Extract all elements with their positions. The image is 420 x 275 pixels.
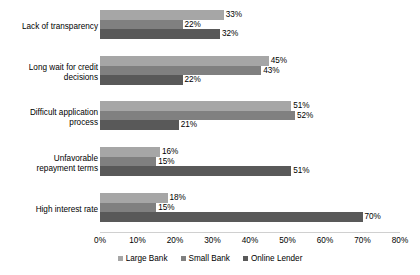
legend-item-small-bank[interactable]: Small Bank (181, 254, 230, 263)
bar-row: 51% (100, 166, 400, 176)
x-axis-line (100, 232, 400, 233)
legend-label: Large Bank (126, 254, 168, 263)
category-label-3: Unfavorable repayment terms (3, 154, 98, 173)
bar-online-lender (100, 29, 220, 39)
bar-large-bank (100, 56, 269, 66)
plot-area: 33%22%32%45%43%22%51%52%21%16%15%51%18%1… (100, 0, 400, 232)
bar-row: 32% (100, 29, 400, 39)
bar-row: 18% (100, 193, 400, 203)
bar-value-label: 22% (183, 75, 201, 85)
bar-small-bank (100, 203, 156, 213)
bar-small-bank (100, 111, 295, 121)
category-label-0: Lack of transparency (3, 22, 98, 32)
x-tick-label: 80% (392, 236, 408, 245)
category-label-line: Unfavorable (3, 154, 98, 164)
x-tick-label: 10% (129, 236, 145, 245)
bar-row: 15% (100, 157, 400, 167)
bar-small-bank (100, 66, 261, 76)
bar-large-bank (100, 101, 291, 111)
bar-group: 45%43%22% (100, 56, 400, 85)
category-label-4: High interest rate (3, 205, 98, 215)
bar-value-label: 18% (168, 193, 186, 203)
bar-online-lender (100, 166, 291, 176)
bar-value-label: 15% (156, 157, 174, 167)
bar-row: 22% (100, 20, 400, 30)
bar-value-label: 70% (363, 212, 381, 222)
bar-group: 18%15%70% (100, 193, 400, 222)
legend-swatch-icon (118, 256, 123, 261)
bar-row: 15% (100, 203, 400, 213)
bar-value-label: 32% (220, 29, 238, 39)
legend-label: Online Lender (251, 254, 302, 263)
legend-swatch-icon (243, 256, 248, 261)
bar-online-lender (100, 120, 179, 130)
bar-group: 33%22%32% (100, 10, 400, 39)
bar-row: 21% (100, 120, 400, 130)
category-label-line: process (3, 118, 98, 128)
bar-small-bank (100, 157, 156, 167)
bar-value-label: 21% (179, 120, 197, 130)
x-tick-label: 20% (167, 236, 183, 245)
bar-value-label: 51% (291, 101, 309, 111)
bar-value-label: 52% (295, 111, 313, 121)
bar-row: 51% (100, 101, 400, 111)
bar-value-label: 16% (160, 147, 178, 157)
category-label-line: repayment terms (3, 164, 98, 174)
bar-group: 51%52%21% (100, 101, 400, 130)
category-label-2: Difficult application process (3, 108, 98, 127)
legend-swatch-icon (181, 256, 186, 261)
bar-row: 16% (100, 147, 400, 157)
bar-value-label: 22% (183, 20, 201, 30)
category-label-line: Long wait for credit (3, 63, 98, 73)
bar-row: 33% (100, 10, 400, 20)
x-tick-label: 30% (204, 236, 220, 245)
x-tick-label: 70% (354, 236, 370, 245)
bar-row: 70% (100, 212, 400, 222)
bar-small-bank (100, 20, 183, 30)
bar-value-label: 15% (156, 203, 174, 213)
bar-online-lender (100, 212, 363, 222)
bar-value-label: 51% (291, 166, 309, 176)
legend-item-online-lender[interactable]: Online Lender (243, 254, 302, 263)
bar-online-lender (100, 75, 183, 85)
category-label-line: Difficult application (3, 108, 98, 118)
x-tick-label: 40% (242, 236, 258, 245)
category-label-1: Long wait for credit decisions (3, 63, 98, 82)
bar-chart: Lack of transparency Long wait for credi… (0, 0, 420, 275)
bar-large-bank (100, 193, 168, 203)
x-tick-label: 50% (279, 236, 295, 245)
bar-row: 22% (100, 75, 400, 85)
bar-value-label: 45% (269, 56, 287, 66)
legend-label: Small Bank (189, 254, 230, 263)
bar-row: 45% (100, 56, 400, 66)
x-tick-label: 60% (317, 236, 333, 245)
category-label-line: High interest rate (3, 205, 98, 215)
bar-large-bank (100, 147, 160, 157)
bar-value-label: 33% (224, 10, 242, 20)
legend-item-large-bank[interactable]: Large Bank (118, 254, 168, 263)
x-tick-label: 0% (94, 236, 106, 245)
bar-large-bank (100, 10, 224, 20)
bar-row: 52% (100, 111, 400, 121)
bar-group: 16%15%51% (100, 147, 400, 176)
category-label-line: decisions (3, 73, 98, 83)
category-label-line: Lack of transparency (3, 22, 98, 32)
bar-row: 43% (100, 66, 400, 76)
chart-legend: Large BankSmall BankOnline Lender (0, 254, 420, 263)
bar-value-label: 43% (261, 66, 279, 76)
